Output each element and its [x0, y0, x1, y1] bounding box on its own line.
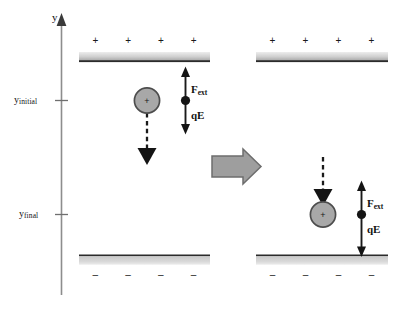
bottom-plate-right: [256, 255, 388, 265]
bottom-plate-signs-right-2: –: [301, 270, 311, 280]
bottom-plate-signs-right-4: –: [367, 270, 377, 280]
bottom-plate-signs-left-4: –: [189, 270, 199, 280]
top-plate-signs-right-2: +: [301, 36, 311, 46]
tick-label-y-final: yfinal: [19, 209, 38, 220]
top-plate-signs-left-3: +: [156, 36, 166, 46]
force-base: qE: [191, 109, 204, 121]
top-plate-right: [256, 52, 388, 62]
force-label-fext-left: Fext: [191, 84, 207, 96]
bottom-plate-signs-right-1: –: [268, 270, 278, 280]
top-plate-signs-left-4: +: [189, 36, 199, 46]
y-axis: [55, 13, 68, 295]
top-plate-left: [79, 52, 210, 62]
top-plate-signs-right-3: +: [334, 36, 344, 46]
top-plate-signs-left-1: +: [90, 36, 100, 46]
force-label-fext-right: Fext: [367, 198, 383, 210]
force-subscript: ext: [198, 88, 208, 97]
force-base: F: [367, 197, 374, 209]
force-base: F: [191, 83, 198, 95]
tick-label-y-initial: yinitial: [14, 95, 37, 106]
force-base: qE: [367, 223, 380, 235]
tick-subscript: final: [24, 211, 38, 220]
transition-arrow: [212, 149, 261, 184]
axis-label-y: y: [52, 12, 58, 23]
force-label-qe-right: qE: [367, 224, 380, 235]
bottom-plate-signs-left-1: –: [90, 270, 100, 280]
charge-sign-left: +: [142, 97, 152, 106]
displacement-arrow-right: [314, 157, 333, 206]
diagram-canvas: [0, 0, 415, 310]
bottom-plate-signs-left-2: –: [123, 270, 133, 280]
force-subscript: ext: [374, 202, 384, 211]
force-pair-right: [357, 181, 366, 258]
bottom-plate-signs-left-3: –: [156, 270, 166, 280]
physics-diagram: y yinitial yfinal Fext qE Fext qE ++++++…: [0, 0, 415, 310]
tick-subscript: initial: [19, 97, 37, 106]
top-plate-signs-right-4: +: [367, 36, 377, 46]
displacement-arrow-left: [138, 113, 157, 165]
top-plate-signs-left-2: +: [123, 36, 133, 46]
bottom-plate-signs-right-3: –: [334, 270, 344, 280]
bottom-plate-left: [79, 255, 210, 265]
force-label-qe-left: qE: [191, 110, 204, 121]
force-pair-left: [181, 67, 190, 135]
top-plate-signs-right-1: +: [268, 36, 278, 46]
charge-sign-right: +: [318, 211, 328, 220]
